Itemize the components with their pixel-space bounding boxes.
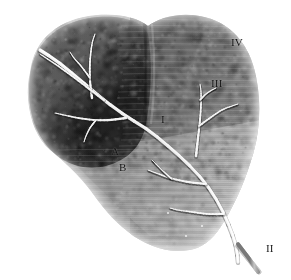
label-iii: III [211, 78, 223, 89]
label-a: A [111, 146, 119, 157]
anatomical-figure: IVIIIIABII [0, 0, 291, 280]
label-ii: II [266, 243, 274, 254]
label-b: B [119, 162, 127, 173]
label-i: I [161, 114, 165, 125]
organ-illustration-canvas [0, 0, 291, 280]
label-iv: IV [231, 37, 243, 48]
